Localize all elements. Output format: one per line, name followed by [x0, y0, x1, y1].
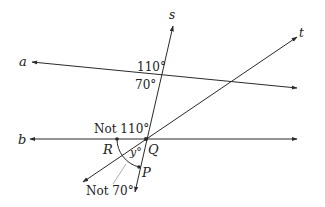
angle-y-label: y° [129, 146, 142, 159]
angle-110-label: 110° [137, 60, 166, 74]
not70-pointer [113, 164, 126, 184]
label-point-R: R [102, 142, 113, 157]
not-110-label: Not 110° [94, 122, 149, 136]
geometry-diagram: a b s t 110° 70° Not 110° y° Not 70° Q R… [0, 0, 325, 207]
line-t [83, 37, 297, 182]
point-Q-dot [144, 137, 148, 141]
label-line-a: a [19, 54, 27, 69]
point-R-dot [115, 137, 119, 141]
label-line-b: b [18, 132, 26, 147]
label-point-Q: Q [148, 142, 159, 157]
angle-70-label: 70° [135, 78, 156, 92]
label-point-P: P [141, 165, 151, 180]
point-P-dot [137, 165, 141, 169]
label-line-t: t [299, 26, 304, 40]
label-line-s: s [169, 8, 175, 22]
not-70-label: Not 70° [86, 184, 134, 198]
